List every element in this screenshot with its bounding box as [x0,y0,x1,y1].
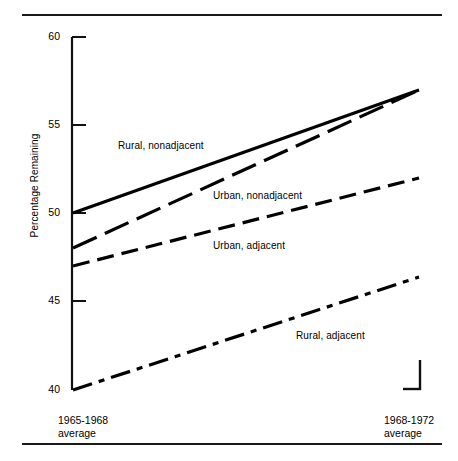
chart-figure: Percentage Remaining 60 55 50 45 40 1965… [0,0,458,461]
series-label-urban-adjacent: Urban, adjacent [213,240,285,251]
y-tick-label-40: 40 [34,384,60,395]
x-category-label-right: 1968-1972 average [384,414,434,439]
series-line-urban-nonadjacent [73,90,419,248]
series-label-urban-nonadjacent: Urban, nonadjacent [213,190,302,201]
series-label-rural-nonadjacent: Rural, nonadjacent [118,140,204,151]
y-tick-label-50: 50 [34,207,60,218]
y-tick-label-45: 45 [34,295,60,306]
y-tick-label-55: 55 [34,119,60,130]
y-axis-title: Percentage Remaining [29,116,40,256]
series-line-rural-adjacent [73,277,419,390]
plot-area [0,0,458,461]
series-label-rural-adjacent: Rural, adjacent [296,330,365,341]
x-category-label-left: 1965-1968 average [58,414,108,439]
y-tick-label-60: 60 [34,31,60,42]
